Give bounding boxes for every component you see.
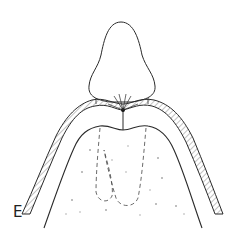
panel-label: E (13, 205, 22, 220)
dashed-roots (96, 128, 146, 206)
anatomical-diagram (0, 0, 242, 241)
crown (89, 22, 155, 104)
